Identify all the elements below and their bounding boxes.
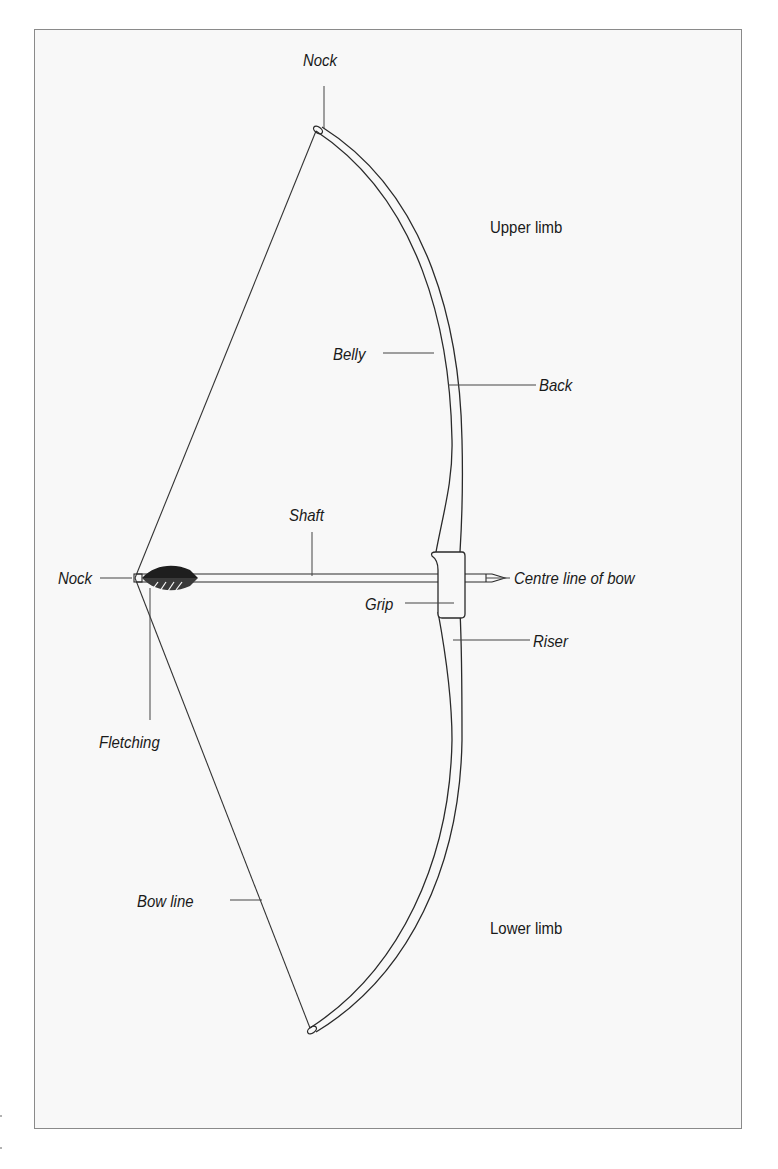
label-fletching: Fletching	[99, 734, 160, 751]
lower-limb	[310, 612, 462, 1032]
bottom-nock-tip	[306, 1025, 318, 1036]
label-nock-arrow: Nock	[58, 570, 92, 587]
label-bow-line: Bow line	[137, 893, 194, 910]
label-belly: Belly	[333, 346, 365, 363]
label-upper-limb: Upper limb	[490, 219, 562, 236]
label-shaft: Shaft	[289, 507, 324, 524]
label-lower-limb: Lower limb	[490, 920, 562, 937]
top-nock-tip	[312, 125, 324, 136]
leader-lines	[100, 86, 536, 900]
label-nock-top: Nock	[303, 52, 337, 69]
label-riser: Riser	[533, 633, 568, 650]
speck	[0, 1115, 2, 1117]
label-centre-line: Centre line of bow	[514, 570, 635, 587]
grip-riser	[432, 552, 466, 618]
speck	[0, 1147, 2, 1149]
upper-limb	[316, 127, 462, 552]
bow-illustration	[0, 0, 778, 1169]
label-grip: Grip	[365, 596, 393, 613]
label-back: Back	[539, 377, 572, 394]
